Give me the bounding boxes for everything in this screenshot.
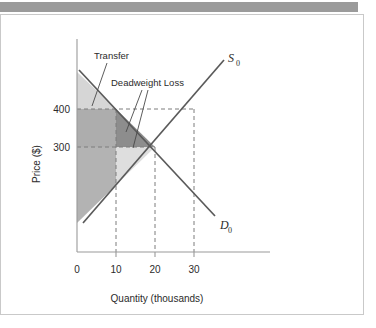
x-tick-label-30: 30 (188, 264, 200, 275)
x-axis-ticks (116, 252, 194, 257)
x-tick-label-10: 10 (110, 264, 122, 275)
x-tick-label-0: 0 (74, 264, 80, 275)
region-transfer (77, 109, 116, 147)
demand-curve-label-subscript: 0 (228, 226, 232, 235)
region-deadweight-loss (116, 109, 155, 147)
top-banner-bar (0, 2, 358, 12)
y-axis-title: Price ($) (31, 145, 42, 183)
supply-curve-label: S (228, 51, 234, 65)
supply-curve-label-subscript: 0 (236, 59, 240, 68)
annotation-deadweight-loss-label: Deadweight Loss (111, 77, 184, 88)
y-tick-label-400: 400 (53, 104, 70, 115)
x-axis-title: Quantity (thousands) (111, 293, 204, 304)
annotation-deadweight-loss-leader-1 (126, 90, 142, 132)
x-tick-label-20: 20 (149, 264, 161, 275)
supply-curve-label-group: S 0 (228, 51, 240, 68)
figure-root: 400 300 0 10 20 30 Quantity (thousands) … (0, 0, 376, 328)
region-producer-surplus (77, 147, 116, 223)
y-tick-label-300: 300 (53, 142, 70, 153)
annotation-transfer-label: Transfer (94, 50, 129, 61)
economics-chart: 400 300 0 10 20 30 Quantity (thousands) … (0, 14, 366, 316)
demand-curve-label-group: D 0 (219, 218, 232, 235)
